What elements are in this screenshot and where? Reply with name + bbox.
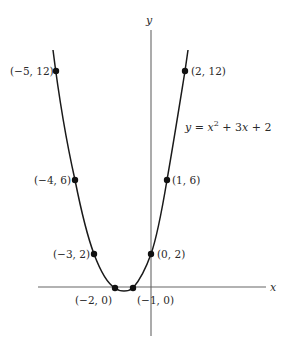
label-1-6: (1, 6) [172, 174, 200, 186]
label-m5-12: (−5, 12) [10, 65, 54, 77]
point-m2-0 [112, 285, 118, 291]
label-2-12: (2, 12) [191, 65, 226, 77]
label-m4-6: (−4, 6) [34, 174, 71, 186]
label-m3-2: (−3, 2) [53, 248, 90, 260]
point-m1-0 [130, 285, 136, 291]
point-0-2 [148, 251, 154, 257]
y-axis-label: y [145, 14, 153, 27]
parabola-figure: x y (−5, 12) (−4, 6) (−3, 2) (−2, 0) (−1… [0, 0, 289, 349]
equation-label: y = x2 + 3x + 2 [184, 119, 271, 134]
label-m2-0: (−2, 0) [75, 294, 112, 306]
point-m5-12 [53, 68, 59, 74]
point-m3-2 [91, 251, 97, 257]
point-m4-6 [72, 177, 78, 183]
label-0-2: (0, 2) [157, 248, 185, 260]
x-axis-label: x [270, 281, 277, 294]
point-2-12 [182, 68, 188, 74]
point-labels: (−5, 12) (−4, 6) (−3, 2) (−2, 0) (−1, 0)… [10, 65, 226, 306]
label-m1-0: (−1, 0) [137, 294, 174, 306]
point-1-6 [164, 177, 170, 183]
